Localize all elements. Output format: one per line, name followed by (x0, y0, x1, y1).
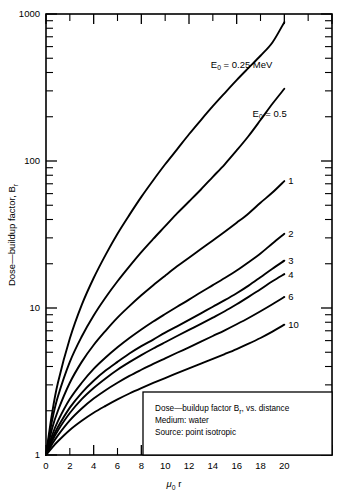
x-tick-label: 18 (255, 460, 266, 471)
x-tick-label: 14 (208, 460, 219, 471)
y-tick-label: 1 (35, 449, 40, 460)
x-tick-label: 8 (139, 460, 144, 471)
curve-end-label: 6 (288, 291, 293, 302)
caption-line-1: Dose—buildup factor Br, vs. distance (155, 404, 290, 415)
y-tick-label: 1000 (19, 8, 40, 19)
annotation-label: E0 = 0.25 MeV (211, 59, 273, 72)
annotation-label: E0 = 0.5 (253, 108, 287, 121)
y-tick-label: 100 (24, 155, 40, 166)
caption-line-3: Source: point isotropic (155, 428, 236, 437)
x-tick-label: 16 (231, 460, 242, 471)
caption-line-2: Medium: water (155, 416, 209, 425)
chart-svg: 1101001000 02468101214161820 1234610 E0 … (0, 0, 345, 498)
x-tick-label: 0 (43, 460, 48, 471)
curve-end-label: 3 (288, 255, 293, 266)
x-tick-label: 10 (160, 460, 171, 471)
curve-end-label: 4 (288, 269, 293, 280)
curve-end-label: 10 (288, 319, 299, 330)
y-axis-title: Dose—buildup factor, Br (6, 183, 19, 286)
x-tick-label: 6 (115, 460, 120, 471)
x-tick-label: 12 (184, 460, 195, 471)
caption-box: Dose—buildup factor Br, vs. distance Med… (143, 392, 332, 455)
y-tick-label: 10 (29, 302, 40, 313)
curve-end-label: 1 (288, 175, 293, 186)
curve-end-label: 2 (288, 228, 293, 239)
x-tick-label: 4 (91, 460, 96, 471)
chart-figure: 1101001000 02468101214161820 1234610 E0 … (0, 0, 345, 498)
x-tick-label: 2 (67, 460, 72, 471)
x-tick-label: 20 (279, 460, 290, 471)
